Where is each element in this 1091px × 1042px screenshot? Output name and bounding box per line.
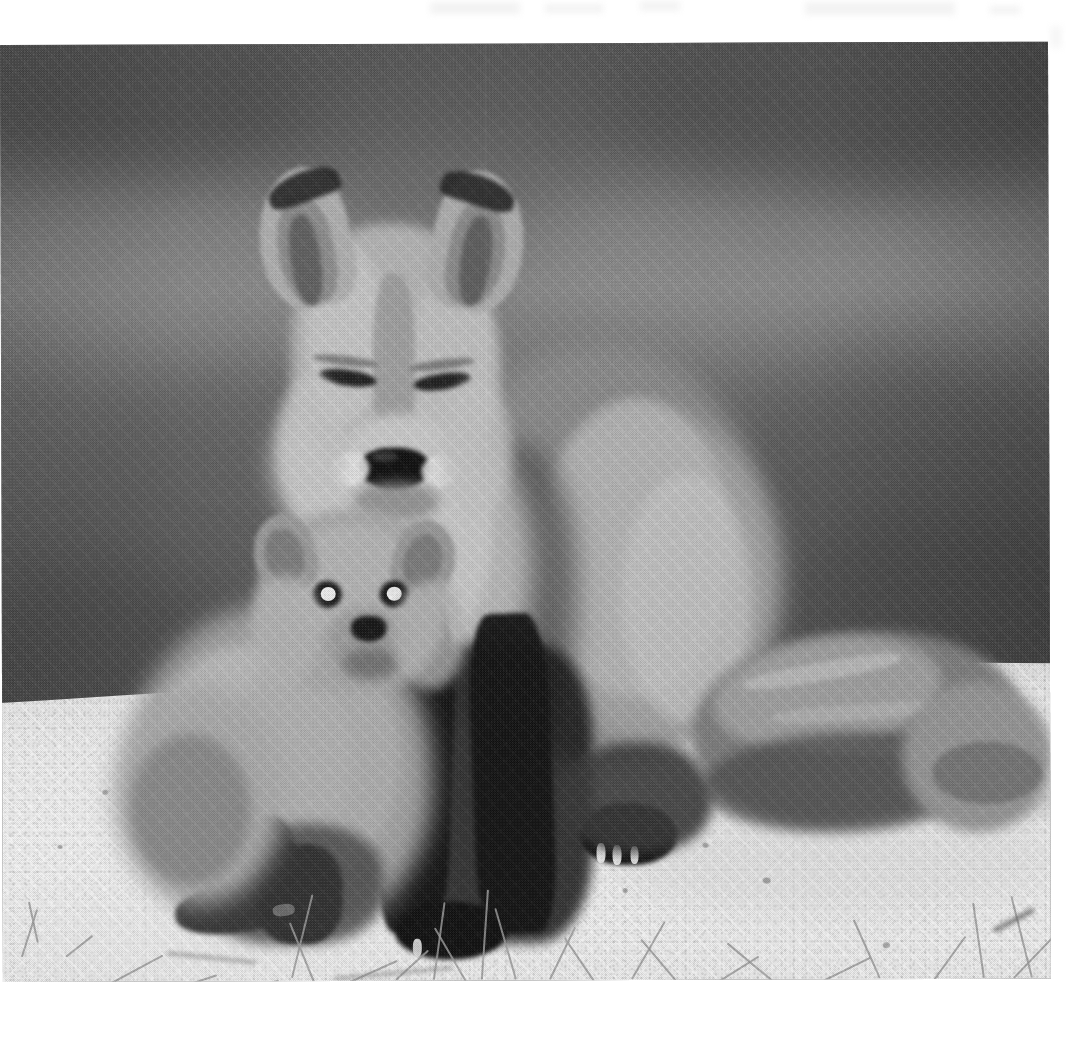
- fox-photograph: [0, 42, 1051, 982]
- margin-smudge: [1050, 26, 1062, 48]
- fox-kit-nose: [351, 616, 387, 642]
- fox-kit-cheek-right: [394, 580, 466, 690]
- margin-smudge: [805, 2, 955, 15]
- fox-kit-chin: [342, 648, 400, 680]
- fox-kit-right-eye-highlight: [387, 587, 402, 601]
- fox-kit-rear-shadow: [130, 734, 250, 884]
- margin-smudge: [430, 2, 520, 14]
- page-canvas: Black and white photograph of an adult r…: [0, 0, 1091, 1042]
- fox-kit: [0, 42, 1051, 982]
- fox-kit-cheek-left: [250, 574, 322, 684]
- margin-smudge: [990, 6, 1020, 14]
- margin-smudge: [640, 1, 680, 11]
- fox-kit-left-eye-highlight: [321, 587, 336, 601]
- margin-smudge: [545, 4, 603, 13]
